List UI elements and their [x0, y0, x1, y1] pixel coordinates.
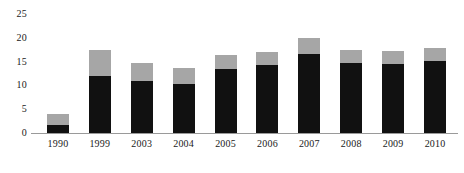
stacked-bar[interactable]	[215, 55, 237, 133]
x-tick-label: 2007	[288, 139, 330, 149]
bar-segment-lower[interactable]	[340, 63, 362, 133]
bar-segment-lower[interactable]	[424, 61, 446, 133]
bar-group[interactable]: 2003	[121, 0, 163, 173]
bar-segment-lower[interactable]	[47, 125, 69, 133]
bar-segment-upper[interactable]	[382, 51, 404, 64]
x-tick-label: 1999	[79, 139, 121, 149]
stacked-bar[interactable]	[424, 48, 446, 133]
stacked-bar[interactable]	[89, 50, 111, 133]
bar-segment-upper[interactable]	[173, 68, 195, 84]
x-tick-label: 2009	[372, 139, 414, 149]
bar-segment-lower[interactable]	[89, 76, 111, 133]
stacked-bar[interactable]	[131, 63, 153, 133]
bar-group[interactable]: 2008	[330, 0, 372, 173]
bar-segment-lower[interactable]	[256, 65, 278, 133]
x-tick-label: 2006	[247, 139, 289, 149]
y-axis: 0510152025	[0, 0, 32, 173]
bar-segment-lower[interactable]	[215, 69, 237, 133]
bar-segment-lower[interactable]	[173, 84, 195, 133]
bar-segment-upper[interactable]	[340, 50, 362, 63]
bar-group[interactable]: 2004	[163, 0, 205, 173]
bar-group[interactable]: 2007	[288, 0, 330, 173]
bar-segment-upper[interactable]	[298, 38, 320, 54]
stacked-bar[interactable]	[340, 50, 362, 133]
stacked-bar[interactable]	[173, 68, 195, 133]
bar-segment-upper[interactable]	[256, 52, 278, 65]
x-tick-label: 2008	[330, 139, 372, 149]
bar-segment-lower[interactable]	[131, 81, 153, 133]
bar-segment-upper[interactable]	[89, 50, 111, 76]
y-tick-label: 10	[17, 80, 27, 90]
bar-group[interactable]: 1990	[37, 0, 79, 173]
y-tick-label: 15	[17, 57, 27, 67]
stacked-bar[interactable]	[47, 114, 69, 133]
y-tick-label: 20	[17, 33, 27, 43]
bar-group[interactable]: 2005	[205, 0, 247, 173]
y-tick-label: 5	[22, 104, 27, 114]
stacked-bar[interactable]	[256, 52, 278, 133]
y-tick-label: 25	[17, 9, 27, 19]
x-tick-label: 2003	[121, 139, 163, 149]
bar-segment-lower[interactable]	[382, 64, 404, 133]
bar-group[interactable]: 2006	[247, 0, 289, 173]
x-tick-label: 1990	[37, 139, 79, 149]
plot-area: 1990199920032004200520062007200820092010	[37, 0, 456, 173]
stacked-bar[interactable]	[382, 51, 404, 133]
bar-group[interactable]: 1999	[79, 0, 121, 173]
bar-segment-upper[interactable]	[47, 114, 69, 125]
bar-segment-upper[interactable]	[424, 48, 446, 61]
x-tick-label: 2010	[414, 139, 456, 149]
y-tick-label: 0	[22, 128, 27, 138]
stacked-bar[interactable]	[298, 38, 320, 133]
x-tick-label: 2004	[163, 139, 205, 149]
bar-segment-upper[interactable]	[131, 63, 153, 81]
bar-group[interactable]: 2009	[372, 0, 414, 173]
bar-group[interactable]: 2010	[414, 0, 456, 173]
bar-chart: 0510152025 19901999200320042005200620072…	[0, 0, 464, 173]
bar-segment-lower[interactable]	[298, 54, 320, 133]
x-tick-label: 2005	[205, 139, 247, 149]
bar-segment-upper[interactable]	[215, 55, 237, 69]
